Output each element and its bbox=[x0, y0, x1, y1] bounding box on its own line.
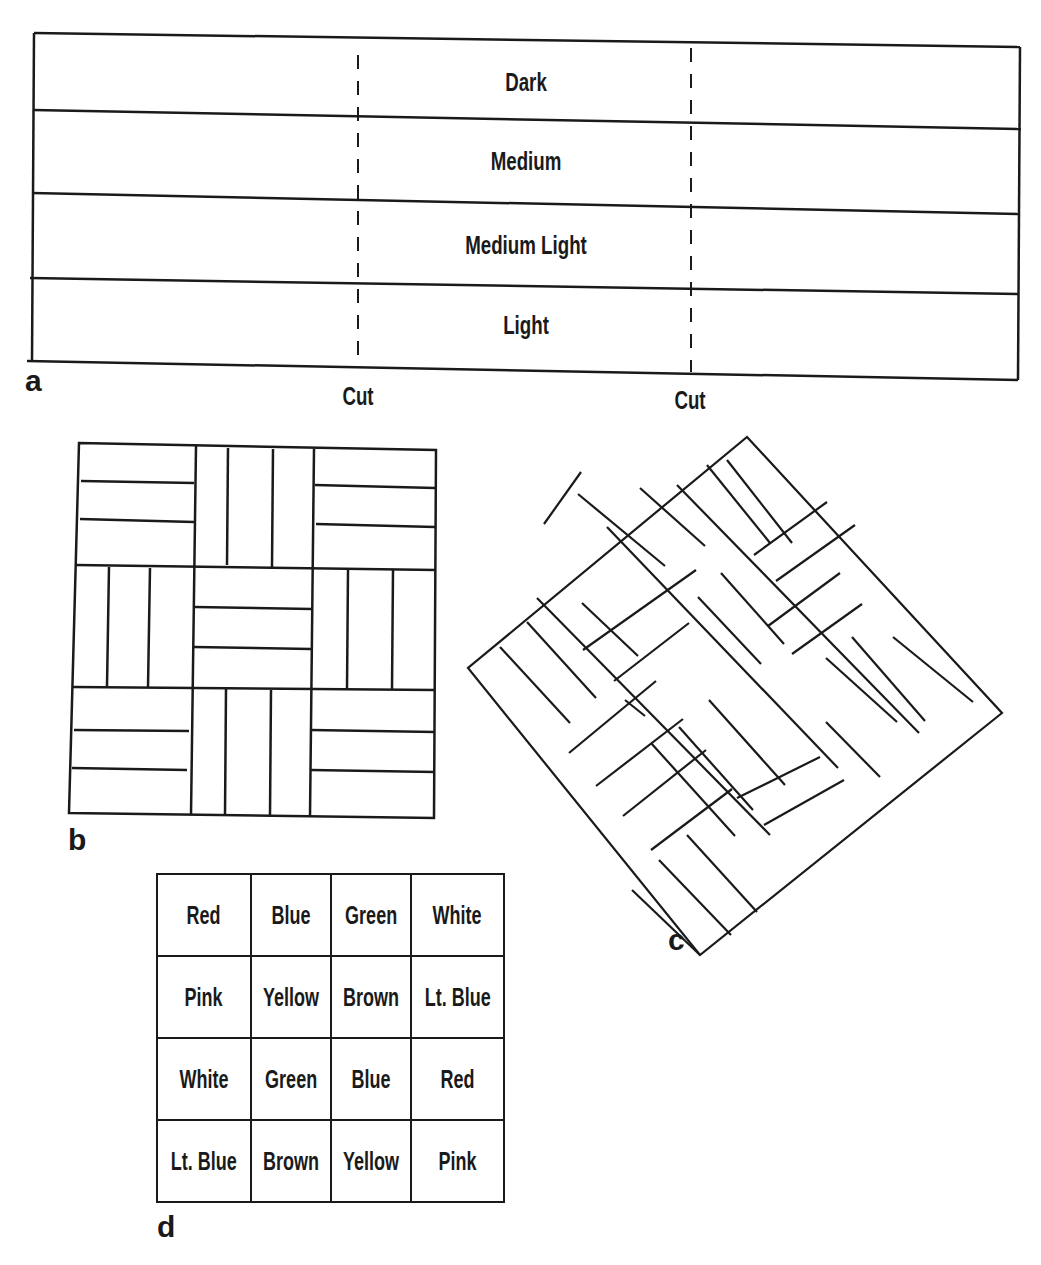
grid-row: Lt. Blue Brown Yellow Pink bbox=[157, 1120, 504, 1202]
rotated-basketweave-diagram bbox=[468, 437, 1002, 955]
grid-cell: Blue bbox=[331, 1038, 411, 1120]
grid-cell: Red bbox=[411, 1038, 505, 1120]
panel-letter-d: d bbox=[157, 1210, 175, 1244]
grid-cell: Yellow bbox=[251, 956, 331, 1038]
strip-label-medium: Medium bbox=[418, 146, 634, 177]
grid-cell: Green bbox=[251, 1038, 331, 1120]
basketweave-block-diagram bbox=[69, 443, 436, 818]
grid-row: White Green Blue Red bbox=[157, 1038, 504, 1120]
grid-cell: White bbox=[411, 874, 505, 956]
grid-cell: Red bbox=[157, 874, 251, 956]
grid-cell: Green bbox=[331, 874, 411, 956]
cut-label-left: Cut bbox=[329, 381, 387, 412]
grid-cell: Brown bbox=[331, 956, 411, 1038]
panel-letter-c: c bbox=[668, 923, 685, 957]
grid-cell: Brown bbox=[251, 1120, 331, 1202]
panel-letter-b: b bbox=[68, 823, 86, 857]
grid-cell: Lt. Blue bbox=[411, 956, 505, 1038]
grid-cell: Lt. Blue bbox=[157, 1120, 251, 1202]
strip-label-medium-light: Medium Light bbox=[418, 230, 634, 261]
cut-label-right: Cut bbox=[661, 385, 719, 416]
grid-cell: Pink bbox=[411, 1120, 505, 1202]
strip-label-light: Light bbox=[418, 310, 634, 341]
strip-label-dark: Dark bbox=[418, 67, 634, 98]
panel-letter-a: a bbox=[25, 364, 42, 398]
grid-cell: Yellow bbox=[331, 1120, 411, 1202]
grid-cell: Blue bbox=[251, 874, 331, 956]
grid-cell: White bbox=[157, 1038, 251, 1120]
grid-row: Pink Yellow Brown Lt. Blue bbox=[157, 956, 504, 1038]
color-placement-grid: Red Blue Green White Pink Yellow Brown L… bbox=[156, 873, 505, 1203]
grid-cell: Pink bbox=[157, 956, 251, 1038]
grid-row: Red Blue Green White bbox=[157, 874, 504, 956]
